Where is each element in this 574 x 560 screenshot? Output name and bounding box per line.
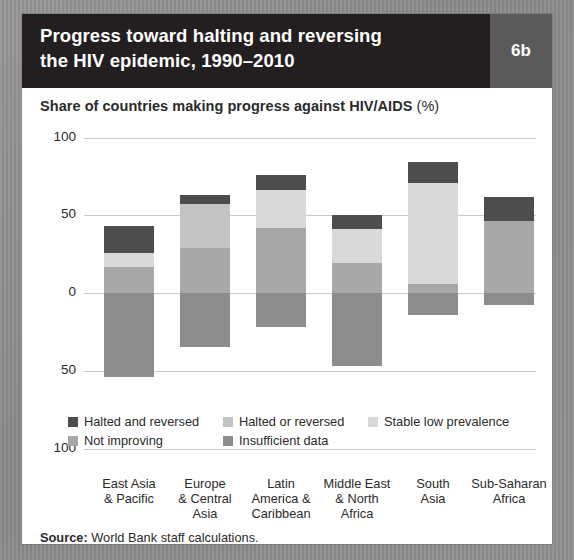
x-axis-category-line: Sub-Saharan [466, 476, 552, 491]
x-axis-category-line: Africa [314, 506, 400, 521]
bar-segment [408, 284, 458, 293]
bar-segment [332, 263, 382, 293]
legend-label: Halted and reversed [84, 414, 199, 429]
x-axis-category-label: Sub-SaharanAfrica [466, 476, 552, 506]
legend-item[interactable]: Not improving [68, 433, 163, 448]
x-axis-category-label: East Asia& Pacific [86, 476, 172, 506]
legend-row: Not improvingInsufficient data [68, 433, 538, 452]
legend-label: Not improving [84, 433, 163, 448]
bar-segment [180, 195, 230, 204]
source-label: Source: [40, 530, 88, 545]
legend-label: Stable low prevalence [384, 414, 509, 429]
bar-segment [408, 162, 458, 182]
legend-swatch-icon [68, 417, 78, 427]
x-axis-category-label: Europe& CentralAsia [162, 476, 248, 521]
legend-row: Halted and reversedHalted or reversedSta… [68, 414, 538, 433]
x-axis-category-label: Middle East& NorthAfrica [314, 476, 400, 521]
y-axis-tick-label: 50 [30, 206, 76, 221]
bar-column [256, 14, 306, 474]
bar-segment [104, 267, 154, 293]
chart-plot-area: 10050050100East Asia& PacificEurope& Cen… [22, 14, 552, 544]
source-note: Source: World Bank staff calculations. [40, 530, 259, 545]
bar-segment [104, 253, 154, 267]
source-text: World Bank staff calculations. [91, 530, 258, 545]
x-axis-category-label: LatinAmerica &Caribbean [238, 476, 324, 521]
y-axis-tick-label: 100 [30, 129, 76, 144]
bar-segment [180, 204, 230, 248]
x-axis-category-line: America & [238, 491, 324, 506]
legend-item[interactable]: Halted or reversed [223, 414, 344, 429]
bar-segment [256, 190, 306, 227]
bar-column [180, 14, 230, 474]
bar-segment [408, 293, 458, 315]
x-axis-category-line: Middle East [314, 476, 400, 491]
bar-segment [484, 221, 534, 293]
bar-segment [484, 293, 534, 305]
x-axis-category-line: Caribbean [238, 506, 324, 521]
bar-segment [104, 226, 154, 252]
bar-segment [484, 197, 534, 222]
bar-segment [180, 293, 230, 347]
bar-column [332, 14, 382, 474]
legend-label: Insufficient data [239, 433, 328, 448]
bar-segment [332, 293, 382, 366]
bar-column [484, 14, 534, 474]
x-axis-category-label: SouthAsia [390, 476, 476, 506]
legend-swatch-icon [68, 436, 78, 446]
legend-item[interactable]: Insufficient data [223, 433, 328, 448]
x-axis-category-line: East Asia [86, 476, 172, 491]
x-axis-category-line: Africa [466, 491, 552, 506]
bar-segment [332, 215, 382, 229]
bar-segment [256, 228, 306, 293]
x-axis-category-line: Europe [162, 476, 248, 491]
bar-segment [256, 293, 306, 327]
x-axis-category-line: Asia [390, 491, 476, 506]
legend-swatch-icon [223, 417, 233, 427]
legend-swatch-icon [368, 417, 378, 427]
bar-segment [256, 175, 306, 191]
x-axis-category-line: & North [314, 491, 400, 506]
legend-item[interactable]: Stable low prevalence [368, 414, 509, 429]
x-axis-category-line: Asia [162, 506, 248, 521]
x-axis-category-line: & Pacific [86, 491, 172, 506]
y-axis-tick-label: 50 [30, 362, 76, 377]
y-axis-tick-label: 0 [30, 284, 76, 299]
bar-segment [180, 248, 230, 293]
bar-column [408, 14, 458, 474]
bar-segment [104, 293, 154, 377]
legend-item[interactable]: Halted and reversed [68, 414, 199, 429]
legend-label: Halted or reversed [239, 414, 344, 429]
chart-legend: Halted and reversedHalted or reversedSta… [68, 414, 538, 452]
x-axis-category-line: Latin [238, 476, 324, 491]
bar-segment [408, 183, 458, 284]
x-axis-category-line: South [390, 476, 476, 491]
bar-column [104, 14, 154, 474]
x-axis-category-line: & Central [162, 491, 248, 506]
legend-swatch-icon [223, 436, 233, 446]
figure-panel: Progress toward halting and reversing th… [22, 14, 552, 544]
bar-segment [332, 229, 382, 263]
